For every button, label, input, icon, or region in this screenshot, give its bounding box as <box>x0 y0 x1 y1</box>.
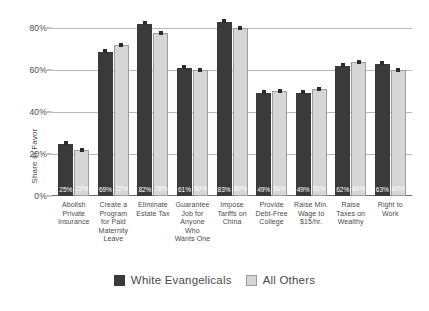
y-axis-tick-label: 0% <box>34 191 47 201</box>
y-axis-tick-label: 40% <box>29 107 47 117</box>
x-axis-category-label: AbolishPrivateInsurance <box>54 201 94 253</box>
bar-group: 49%51% <box>291 18 331 196</box>
bar-groups: 25%22%69%72%82%78%61%60%83%80%49%50%49%5… <box>52 18 412 196</box>
x-axis-category-label: GuaranteeJob forAnyone WhoWants One <box>173 201 213 253</box>
bar-value-label: 49% <box>297 186 310 193</box>
bar-value-label: 61% <box>178 186 191 193</box>
bar-group: 62%64% <box>331 18 371 196</box>
bar-value-label: 64% <box>352 185 365 192</box>
bar-marker-icon <box>222 19 226 23</box>
bar-value-label: 63% <box>376 186 389 193</box>
x-axis-category-label: RaiseTaxes onWealthy <box>331 201 371 253</box>
bar: 25% <box>58 144 73 196</box>
bar-marker-icon <box>396 68 400 72</box>
x-axis-category-label: Raise Min.Wage to$15/hr. <box>291 201 331 253</box>
bar: 78% <box>153 33 168 196</box>
bar-marker-icon <box>80 148 84 152</box>
bar: 62% <box>335 66 350 196</box>
bar: 49% <box>296 93 311 196</box>
bar-marker-icon <box>278 89 282 93</box>
bar-value-label: 62% <box>336 186 349 193</box>
x-axis-category-label: ProvideDebt-FreeCollege <box>252 201 292 253</box>
bar-chart: Share in Favor 0%20%40%60%80% 25%22%69%7… <box>0 0 429 311</box>
bar: 60% <box>391 70 406 196</box>
plot-area: 0%20%40%60%80% 25%22%69%72%82%78%61%60%8… <box>52 18 412 196</box>
bar-marker-icon <box>64 141 68 145</box>
bar-marker-icon <box>143 21 147 25</box>
bar-value-label: 51% <box>313 185 326 192</box>
bar-value-label: 22% <box>75 185 88 192</box>
legend-label: White Evangelicals <box>131 274 232 286</box>
bar-group: 63%60% <box>371 18 411 196</box>
bar-marker-icon <box>341 63 345 67</box>
x-axis-category-label: EliminateEstate Tax <box>133 201 173 253</box>
legend-label: All Others <box>263 274 316 286</box>
bar-group: 82%78% <box>133 18 173 196</box>
bar-group: 49%50% <box>252 18 292 196</box>
bar: 69% <box>98 52 113 196</box>
chart-legend: White Evangelicals All Others <box>0 274 429 286</box>
y-axis-tick-label: 60% <box>29 65 47 75</box>
x-axis-category-label: Create aProgramfor PaidMaternityLeave <box>94 201 134 253</box>
bar: 64% <box>351 62 366 196</box>
bar-value-label: 69% <box>99 186 112 193</box>
bar-group: 25%22% <box>54 18 94 196</box>
bar: 83% <box>217 22 232 196</box>
bar: 72% <box>114 45 129 196</box>
legend-swatch-icon <box>114 275 125 286</box>
bar-marker-icon <box>182 65 186 69</box>
legend-swatch-icon <box>246 275 257 286</box>
bar-marker-icon <box>238 26 242 30</box>
bar-group: 83%80% <box>212 18 252 196</box>
bar-value-label: 78% <box>154 185 167 192</box>
bar-value-label: 25% <box>59 186 72 193</box>
bar-value-label: 60% <box>392 185 405 192</box>
bar: 82% <box>137 24 152 196</box>
legend-item-white-evangelicals: White Evangelicals <box>114 274 232 286</box>
bar-value-label: 72% <box>115 185 128 192</box>
bar-marker-icon <box>119 43 123 47</box>
bar-marker-icon <box>159 31 163 35</box>
bar: 22% <box>74 150 89 196</box>
bar-marker-icon <box>262 90 266 94</box>
bar: 50% <box>272 91 287 196</box>
x-axis-category-label: Right toWork <box>371 201 411 253</box>
bar-marker-icon <box>103 49 107 53</box>
bar-value-label: 50% <box>273 185 286 192</box>
bar-value-label: 60% <box>194 185 207 192</box>
bar: 60% <box>193 70 208 196</box>
bar-marker-icon <box>357 60 361 64</box>
bar-group: 61%60% <box>173 18 213 196</box>
bar-value-label: 82% <box>138 186 151 193</box>
legend-item-all-others: All Others <box>246 274 316 286</box>
x-axis-category-label: ImposeTariffs onChina <box>212 201 252 253</box>
bar: 61% <box>177 68 192 196</box>
bar: 63% <box>375 64 390 196</box>
bar: 80% <box>233 28 248 196</box>
bar-value-label: 80% <box>234 185 247 192</box>
bar: 51% <box>312 89 327 196</box>
bar-group: 69%72% <box>94 18 134 196</box>
bar-marker-icon <box>317 87 321 91</box>
bar-marker-icon <box>198 68 202 72</box>
x-axis-category-labels: AbolishPrivateInsuranceCreate aProgramfo… <box>52 201 412 253</box>
bar-marker-icon <box>301 90 305 94</box>
bar-value-label: 83% <box>218 186 231 193</box>
y-axis-tick-label: 80% <box>29 23 47 33</box>
bar-value-label: 49% <box>257 186 270 193</box>
bar-marker-icon <box>380 61 384 65</box>
bar: 49% <box>256 93 271 196</box>
y-axis-tick-label: 20% <box>29 149 47 159</box>
